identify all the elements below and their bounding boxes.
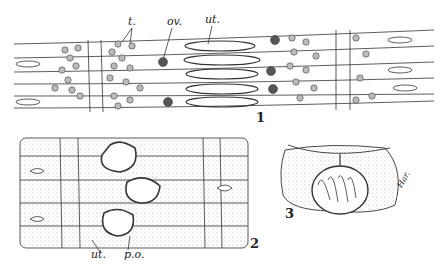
label-po: p.o.	[124, 248, 144, 261]
panel-number-3: 3	[285, 206, 294, 221]
figure-drawing	[0, 0, 441, 270]
panel-number-1: 1	[256, 110, 265, 125]
panel-1-cells	[52, 35, 375, 109]
label-ut-top: ut.	[205, 13, 220, 26]
panel-3-drawing	[281, 145, 398, 214]
label-t: t.	[128, 15, 136, 28]
panel-2-drawing	[20, 138, 248, 252]
panel-number-2: 2	[250, 236, 259, 251]
label-ut-bottom: ut.	[91, 248, 106, 261]
label-ov: ov.	[167, 15, 182, 28]
